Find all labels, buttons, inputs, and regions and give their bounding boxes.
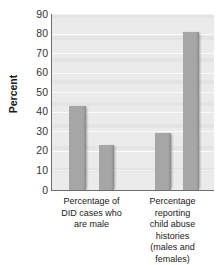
category-label-line: Percentage reporting [133, 196, 212, 219]
y-tick-label: 80 [28, 28, 48, 39]
y-tick-label: 50 [28, 87, 48, 98]
gridline [52, 14, 214, 15]
category-label-line: child abuse histories [133, 219, 212, 242]
y-tick-label: 0 [28, 185, 48, 196]
category-label-line: Percentage of [52, 196, 131, 208]
y-tick-label: 10 [28, 165, 48, 176]
bar [183, 32, 199, 190]
plot-area [51, 14, 214, 191]
y-tick-label: 90 [28, 9, 48, 20]
category-label-1: Percentage reportingchild abuse historie… [132, 196, 213, 265]
y-tick-label: 20 [28, 145, 48, 156]
bar [69, 106, 86, 190]
y-axis-tick-labels: 90 80 70 60 50 40 30 20 10 0 [26, 14, 48, 190]
x-axis-category-labels: Percentage ofDID cases whoare male Perce… [51, 196, 213, 265]
y-tick-label: 60 [28, 67, 48, 78]
category-label-line: are male [52, 219, 131, 231]
y-tick-label: 30 [28, 126, 48, 137]
category-label-0: Percentage ofDID cases whoare male [51, 196, 132, 265]
y-tick-label: 70 [28, 48, 48, 59]
y-tick-label: 40 [28, 106, 48, 117]
bar [155, 133, 171, 190]
category-label-line: (males and females) [133, 242, 212, 265]
bar [99, 145, 114, 190]
y-axis-title: Percent [7, 64, 19, 124]
category-label-line: DID cases who [52, 208, 131, 220]
